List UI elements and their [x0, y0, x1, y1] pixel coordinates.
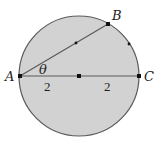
point-label-c: C [144, 69, 154, 84]
length-label-ao: 2 [44, 79, 51, 94]
angle-label-theta: θ [39, 62, 47, 77]
tick-mark [128, 43, 131, 46]
circle-diagram: A B C θ 2 2 [0, 0, 161, 145]
diagram-canvas: A B C θ 2 2 [0, 0, 161, 145]
tick-mark [75, 42, 78, 45]
point-label-a: A [4, 69, 14, 84]
point-label-b: B [111, 8, 122, 23]
point-o [77, 74, 81, 78]
length-label-oc: 2 [104, 79, 111, 94]
point-b [106, 22, 110, 26]
point-c [137, 74, 141, 78]
point-a [18, 74, 22, 78]
